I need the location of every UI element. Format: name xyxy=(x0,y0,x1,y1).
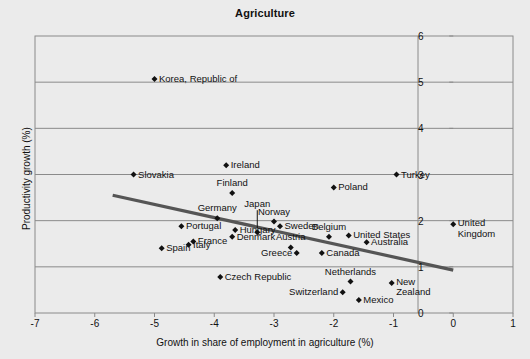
x-tick-label-4: -3 xyxy=(270,318,279,329)
x-tick-label-3: -4 xyxy=(210,318,219,329)
point-label: New Zealand xyxy=(396,276,438,297)
point-label: Turkey xyxy=(401,169,430,180)
point-label: Denmark xyxy=(237,232,276,243)
data-marker xyxy=(178,223,184,229)
data-marker xyxy=(393,172,399,178)
data-marker xyxy=(131,172,137,178)
point-label: Slovakia xyxy=(138,169,174,180)
data-marker xyxy=(326,234,332,240)
data-marker xyxy=(159,245,165,251)
data-marker xyxy=(347,279,353,285)
point-label: Finland xyxy=(217,178,248,189)
x-tick-label-8: 1 xyxy=(510,318,516,329)
point-label: Ireland xyxy=(231,160,260,171)
data-marker xyxy=(229,234,235,240)
point-label: Australia xyxy=(371,237,408,248)
point-label: Poland xyxy=(338,182,368,193)
data-marker xyxy=(389,280,395,286)
point-label: Japan xyxy=(244,199,270,210)
point-label: Korea, Republic of xyxy=(159,74,237,85)
y-tick-label-0: 0 xyxy=(418,308,424,319)
point-label: Canada xyxy=(326,248,359,259)
x-tick-label-7: 0 xyxy=(450,318,456,329)
y-tick-label-6: 6 xyxy=(418,31,424,42)
data-marker xyxy=(277,223,283,229)
data-marker xyxy=(356,297,362,303)
point-label: Germany xyxy=(198,203,237,214)
x-axis-title: Growth in share of employment in agricul… xyxy=(0,337,530,348)
point-label: Italy xyxy=(193,239,210,250)
data-marker xyxy=(229,190,235,196)
x-tick-label-6: -1 xyxy=(389,318,398,329)
data-marker xyxy=(319,250,325,256)
plot-area xyxy=(0,0,530,359)
data-marker xyxy=(217,274,223,280)
data-marker xyxy=(346,232,352,238)
point-label: Belgium xyxy=(312,222,346,233)
point-label: Netherlands xyxy=(325,266,376,277)
point-label: Portugal xyxy=(186,221,221,232)
point-label: Greece xyxy=(261,248,292,259)
data-marker xyxy=(294,250,300,256)
data-marker xyxy=(331,184,337,190)
x-tick-marks xyxy=(35,313,513,317)
y-tick-label-2: 2 xyxy=(418,215,424,226)
data-marker xyxy=(340,289,346,295)
agriculture-scatter-chart: Agriculture Productivity growth (%) -7-6… xyxy=(0,0,530,359)
x-tick-label-0: -7 xyxy=(31,318,40,329)
data-marker xyxy=(152,76,158,82)
point-label: Czech Republic xyxy=(225,272,292,283)
data-marker xyxy=(450,221,456,227)
data-markers-group xyxy=(131,76,457,303)
point-label: Spain xyxy=(166,243,190,254)
y-tick-label-5: 5 xyxy=(418,77,424,88)
data-marker xyxy=(223,162,229,168)
point-label: Mexico xyxy=(363,295,393,306)
x-tick-label-1: -6 xyxy=(90,318,99,329)
y-tick-label-1: 1 xyxy=(418,261,424,272)
point-label: Austria xyxy=(276,232,306,243)
point-label: United Kingdom xyxy=(458,218,500,239)
y-tick-label-4: 4 xyxy=(418,123,424,134)
x-tick-label-2: -5 xyxy=(150,318,159,329)
point-label: Switzerland xyxy=(289,287,338,298)
x-tick-label-5: -2 xyxy=(329,318,338,329)
